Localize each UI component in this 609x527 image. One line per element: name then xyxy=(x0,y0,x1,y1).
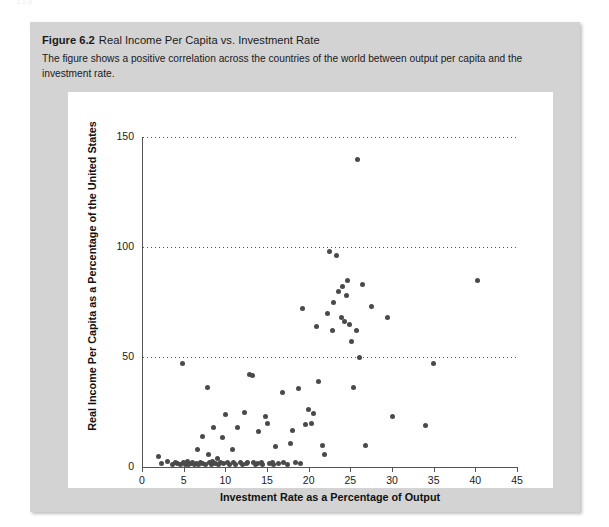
data-point xyxy=(223,412,228,417)
gridline-y-50 xyxy=(143,357,517,358)
data-point xyxy=(220,435,225,440)
x-axis-line xyxy=(142,467,517,468)
gridline-y-150 xyxy=(143,137,517,138)
data-point xyxy=(357,355,362,360)
data-point xyxy=(320,443,325,448)
data-point xyxy=(263,414,268,419)
x-tick-label-25: 25 xyxy=(335,474,365,486)
data-point xyxy=(280,390,285,395)
x-tick-0 xyxy=(142,467,143,472)
data-point xyxy=(345,278,350,283)
data-point xyxy=(385,315,390,320)
x-tick-20 xyxy=(309,467,310,472)
x-tick-10 xyxy=(225,467,226,472)
y-tick-label-50: 50 xyxy=(68,350,134,362)
data-point xyxy=(347,322,352,327)
data-point xyxy=(242,410,247,415)
data-point xyxy=(309,421,314,426)
data-point xyxy=(360,282,365,287)
x-tick-label-20: 20 xyxy=(294,474,324,486)
data-point xyxy=(349,339,354,344)
x-tick-label-5: 5 xyxy=(169,474,199,486)
data-point xyxy=(195,447,200,452)
data-point xyxy=(265,421,270,426)
y-tick-label-100: 100 xyxy=(68,240,134,252)
x-tick-label-0: 0 xyxy=(127,474,157,486)
data-point xyxy=(300,306,305,311)
data-point xyxy=(200,434,205,439)
x-tick-label-15: 15 xyxy=(252,474,282,486)
data-point xyxy=(340,284,345,289)
x-tick-15 xyxy=(267,467,268,472)
data-point xyxy=(180,361,185,366)
y-tick-label-0: 0 xyxy=(68,460,134,472)
figure-caption-heading: Figure 6.2Real Income Per Capita vs. Inv… xyxy=(42,32,542,48)
data-point xyxy=(369,304,374,309)
data-point xyxy=(354,328,359,333)
figure-number: Figure 6.2 xyxy=(42,34,95,46)
data-point xyxy=(336,289,341,294)
y-axis-title: Real Income Per Capita as a Percentage o… xyxy=(86,106,98,446)
data-point xyxy=(303,422,308,427)
data-point xyxy=(206,452,211,457)
x-tick-label-35: 35 xyxy=(419,474,449,486)
data-point xyxy=(314,324,319,329)
data-point xyxy=(330,328,335,333)
data-point xyxy=(363,443,368,448)
data-point xyxy=(325,311,330,316)
page-number: 119 xyxy=(16,0,33,6)
x-tick-40 xyxy=(475,467,476,472)
data-point xyxy=(245,460,250,465)
figure-box: Figure 6.2Real Income Per Capita vs. Inv… xyxy=(30,22,580,512)
figure-description: The figure shows a positive correlation … xyxy=(42,52,524,81)
data-point xyxy=(316,379,321,384)
y-axis-line xyxy=(142,137,143,468)
gridline-y-100 xyxy=(143,247,517,248)
figure-title: Real Income Per Capita vs. Investment Ra… xyxy=(99,34,320,46)
data-point xyxy=(156,454,161,459)
data-point xyxy=(159,461,164,466)
data-point xyxy=(273,444,278,449)
data-point xyxy=(250,373,255,378)
data-point xyxy=(351,385,356,390)
data-point xyxy=(311,411,316,416)
data-point xyxy=(288,441,293,446)
data-point xyxy=(344,293,349,298)
figure-caption: Figure 6.2Real Income Per Capita vs. Inv… xyxy=(42,32,542,81)
x-tick-25 xyxy=(350,467,351,472)
data-point xyxy=(230,447,235,452)
x-tick-5 xyxy=(184,467,185,472)
x-tick-35 xyxy=(434,467,435,472)
data-point xyxy=(322,452,327,457)
data-point xyxy=(334,253,339,258)
data-point xyxy=(298,461,303,466)
x-tick-label-40: 40 xyxy=(460,474,490,486)
x-tick-label-10: 10 xyxy=(210,474,240,486)
data-point xyxy=(431,361,436,366)
data-point xyxy=(331,300,336,305)
plot-panel: 050100150 051015202530354045 Investment … xyxy=(68,92,553,488)
data-point xyxy=(205,385,210,390)
data-point xyxy=(235,425,240,430)
data-point xyxy=(211,425,216,430)
x-tick-label-45: 45 xyxy=(502,474,532,486)
data-point xyxy=(327,249,332,254)
data-point xyxy=(355,157,360,162)
data-point xyxy=(390,414,395,419)
data-point xyxy=(296,386,301,391)
x-tick-30 xyxy=(392,467,393,472)
x-axis-title: Investment Rate as a Percentage of Outpu… xyxy=(142,491,518,503)
data-point xyxy=(423,423,428,428)
x-tick-45 xyxy=(517,467,518,472)
x-tick-label-30: 30 xyxy=(377,474,407,486)
data-point xyxy=(290,428,295,433)
data-point xyxy=(475,278,480,283)
y-tick-label-150: 150 xyxy=(68,130,134,142)
data-point xyxy=(256,429,261,434)
scatter-plot: 050100150 051015202530354045 Investment … xyxy=(68,92,553,488)
